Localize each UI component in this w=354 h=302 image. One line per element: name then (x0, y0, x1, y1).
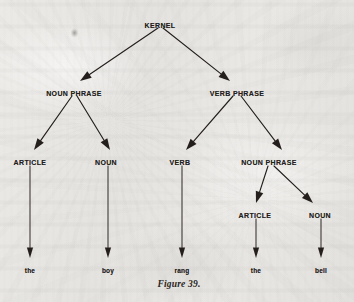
arrowhead-np1-to-noun1 (101, 138, 110, 150)
arrowhead-kernel-to-vp (219, 71, 230, 81)
tree-edge-np2-to-art2 (260, 166, 268, 192)
arrowhead-noun2-to-word_bell (318, 248, 324, 259)
tree-edge-np1-to-art1 (41, 96, 72, 141)
tree-node-np1: NOUN PHRASE (46, 90, 102, 97)
tree-edge-kernel-to-vp (163, 28, 221, 74)
tree-node-word_the2: the (251, 267, 261, 274)
tree-node-word_rang: rang (175, 267, 190, 274)
arrowhead-art2-to-word_the2 (253, 248, 259, 259)
arrowhead-vp-to-np2 (272, 138, 282, 150)
tree-node-word_the1: the (25, 267, 35, 274)
arrowhead-noun1-to-word_boy (105, 248, 111, 259)
tree-edge-vp-to-np2 (241, 96, 275, 141)
tree-node-verb: VERB (170, 159, 191, 166)
parse-tree-edges (0, 0, 354, 302)
tree-edge-np1-to-noun1 (77, 96, 104, 140)
figure-caption: Figure 39. (157, 279, 200, 289)
tree-node-kernel: KERNEL (145, 22, 176, 29)
tree-node-art2: ARTICLE (239, 212, 272, 219)
tree-node-word_boy: boy (102, 267, 114, 274)
tree-edge-vp-to-verb (194, 96, 233, 141)
tree-edge-kernel-to-np1 (90, 28, 158, 75)
tree-node-noun1: NOUN (95, 159, 117, 166)
figure-page: KERNELNOUN PHRASEVERB PHRASEARTICLENOUNV… (0, 0, 354, 302)
tree-edge-np2-to-noun2 (274, 166, 305, 195)
arrowhead-kernel-to-np1 (80, 71, 92, 81)
tree-node-word_bell: bell (315, 267, 327, 274)
arrowhead-verb-to-word_rang (179, 248, 185, 259)
arrowhead-np1-to-art1 (34, 138, 44, 150)
tree-node-noun2: NOUN (309, 212, 331, 219)
tree-node-np2: NOUN PHRASE (241, 159, 297, 166)
tree-node-vp: VERB PHRASE (210, 90, 264, 97)
arrowhead-art1-to-word_the1 (27, 248, 33, 259)
tree-node-art1: ARTICLE (14, 159, 47, 166)
arrowhead-np2-to-art2 (256, 191, 263, 203)
